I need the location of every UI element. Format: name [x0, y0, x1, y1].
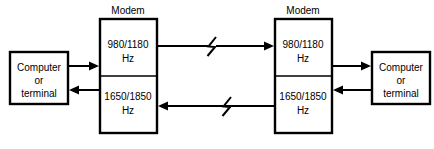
right-terminal-out-arrowhead — [333, 86, 343, 95]
diagram-canvas: Computer or terminal Modem 980/1180 Hz 1… — [0, 0, 434, 149]
connection-left-modem-to-left-terminal — [69, 86, 100, 95]
left-computer-terminal-box: Computer or terminal — [10, 52, 68, 104]
right-modem-caption: Modem — [286, 5, 319, 16]
left-modem-out-arrowhead — [69, 86, 79, 95]
right-modem-lower-freq-line1: 1650/1850 — [279, 91, 327, 102]
right-modem-out-arrowhead — [361, 62, 371, 71]
left-modem-lower-freq-line1: 1650/1850 — [104, 91, 152, 102]
right-modem-lower-freq-line2: Hz — [297, 105, 309, 116]
left-modem-upper-freq-line2: Hz — [122, 53, 134, 64]
right-terminal-label-line3: terminal — [383, 88, 419, 99]
connection-left-terminal-to-left-modem — [68, 62, 99, 71]
lower-trunk-arrowhead — [158, 102, 168, 111]
right-terminal-label-line2: or — [397, 75, 407, 86]
left-terminal-label-line2: or — [35, 75, 45, 86]
modem-link-diagram: Computer or terminal Modem 980/1180 Hz 1… — [0, 0, 434, 149]
left-terminal-label-line1: Computer — [17, 62, 62, 73]
left-terminal-out-arrowhead — [89, 62, 99, 71]
right-terminal-label-line1: Computer — [379, 62, 424, 73]
left-modem-upper-freq-line1: 980/1180 — [108, 39, 149, 50]
lower-line-break-icon — [223, 97, 232, 116]
connection-right-terminal-to-right-modem — [333, 86, 372, 95]
connection-left-modem-to-right-modem-upper — [157, 37, 274, 56]
right-modem-upper-freq-line2: Hz — [297, 53, 309, 64]
right-modem-box: Modem 980/1180 Hz 1650/1850 Hz — [275, 5, 332, 133]
left-terminal-label-line3: terminal — [21, 88, 57, 99]
upper-trunk-arrowhead — [264, 42, 274, 51]
connection-right-modem-to-right-terminal — [332, 62, 371, 71]
left-modem-lower-freq-line2: Hz — [122, 105, 134, 116]
left-modem-caption: Modem — [111, 5, 144, 16]
right-modem-upper-freq-line1: 980/1180 — [283, 39, 324, 50]
right-computer-terminal-box: Computer or terminal — [372, 52, 430, 104]
left-modem-box: Modem 980/1180 Hz 1650/1850 Hz — [100, 5, 157, 133]
upper-line-break-icon — [208, 37, 217, 56]
connection-right-modem-to-left-modem-lower — [158, 97, 275, 116]
